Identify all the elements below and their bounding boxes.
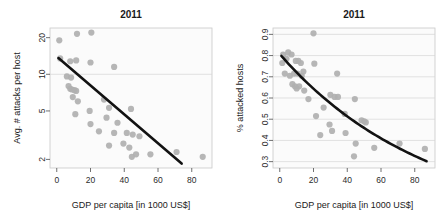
y-tick-label: 5 xyxy=(37,108,47,113)
x-axis-title: GDP per capita [in 1000 US$] xyxy=(295,200,413,210)
data-point xyxy=(342,130,348,136)
data-point xyxy=(310,30,316,36)
data-point xyxy=(106,142,112,148)
data-point xyxy=(311,61,317,67)
data-point xyxy=(72,111,78,117)
x-axis: 020406080 xyxy=(54,168,196,185)
data-point xyxy=(128,106,134,112)
x-tick-label: 0 xyxy=(54,175,59,185)
data-point xyxy=(298,60,304,66)
data-point xyxy=(111,64,117,70)
data-point xyxy=(74,31,80,37)
x-tick-label: 20 xyxy=(86,175,96,185)
y-tick-label: 0.6 xyxy=(260,92,270,104)
x-axis: 020406080 xyxy=(277,168,419,185)
y-tick-label: 2 xyxy=(37,157,47,162)
data-point xyxy=(296,83,302,89)
data-point xyxy=(363,119,369,125)
data-point xyxy=(75,98,81,104)
data-point xyxy=(126,145,132,151)
y-tick-label: 0.4 xyxy=(260,134,270,146)
data-point xyxy=(326,121,332,127)
data-point xyxy=(130,131,136,137)
data-point xyxy=(352,96,358,102)
data-point xyxy=(200,154,206,160)
chart-right-root: 0.30.40.50.60.70.80.90204060802011GDP pe… xyxy=(235,9,435,210)
data-point xyxy=(334,71,340,77)
x-axis-title: GDP per capita [in 1000 US$] xyxy=(72,200,190,210)
data-point xyxy=(103,115,109,121)
y-axis-title: Avg. # attacks per host xyxy=(12,52,22,144)
chart-left-root: 2510200204060802011GDP per capita [in 10… xyxy=(12,9,212,210)
data-point xyxy=(317,132,323,138)
y-axis: 251020 xyxy=(37,33,50,162)
x-tick-label: 40 xyxy=(343,175,353,185)
data-point xyxy=(288,51,294,57)
data-point xyxy=(313,113,319,119)
data-point xyxy=(70,94,76,100)
data-point xyxy=(87,108,93,114)
x-tick-label: 80 xyxy=(187,175,197,185)
x-tick-label: 60 xyxy=(376,175,386,185)
data-point xyxy=(73,57,79,63)
y-axis: 0.30.40.50.60.70.80.9 xyxy=(260,28,273,167)
data-point xyxy=(114,120,120,126)
scatter-chart-avg-attacks: 2510200204060802011GDP per capita [in 10… xyxy=(0,0,223,220)
data-point xyxy=(136,133,142,139)
data-point xyxy=(396,141,402,147)
figure-panel-pair: 2510200204060802011GDP per capita [in 10… xyxy=(0,0,446,220)
data-point xyxy=(353,141,359,147)
x-tick-label: 20 xyxy=(309,175,319,185)
data-point xyxy=(68,74,74,80)
y-tick-label: 0.8 xyxy=(260,49,270,61)
scatter-chart-percent-attacked: 0.30.40.50.60.70.80.90204060802011GDP pe… xyxy=(223,0,446,220)
chart-title: 2011 xyxy=(120,9,142,20)
data-point xyxy=(88,29,94,35)
data-point xyxy=(422,146,428,152)
data-point xyxy=(300,68,306,74)
y-tick-label: 0.5 xyxy=(260,113,270,125)
y-tick-label: 0.3 xyxy=(260,155,270,167)
y-tick-label: 10 xyxy=(37,69,47,79)
data-point xyxy=(73,88,79,94)
y-tick-label: 0.9 xyxy=(260,28,270,40)
data-point xyxy=(173,149,179,155)
data-point xyxy=(305,96,311,102)
chart-panel-right: 0.30.40.50.60.70.80.90204060802011GDP pe… xyxy=(223,0,446,220)
data-point xyxy=(301,87,307,93)
data-point xyxy=(106,105,112,111)
data-point xyxy=(351,153,357,159)
data-point xyxy=(133,151,139,157)
chart-panel-left: 2510200204060802011GDP per capita [in 10… xyxy=(0,0,223,220)
chart-title: 2011 xyxy=(343,9,365,20)
data-point xyxy=(329,128,335,134)
data-point xyxy=(87,59,93,65)
x-tick-label: 40 xyxy=(120,175,130,185)
data-point xyxy=(120,140,126,146)
y-tick-label: 20 xyxy=(37,33,47,43)
y-tick-label: 0.7 xyxy=(260,71,270,83)
y-axis-title: % attacked hosts xyxy=(235,63,245,132)
data-point xyxy=(87,121,93,127)
data-point xyxy=(321,104,327,110)
x-tick-label: 0 xyxy=(277,175,282,185)
data-point xyxy=(371,145,377,151)
data-point xyxy=(56,37,62,43)
data-point xyxy=(111,130,117,136)
data-point xyxy=(96,128,102,134)
data-point xyxy=(335,94,341,100)
data-point xyxy=(67,58,73,64)
data-point xyxy=(124,130,130,136)
x-tick-label: 60 xyxy=(153,175,163,185)
x-tick-label: 80 xyxy=(410,175,420,185)
data-point xyxy=(147,151,153,157)
